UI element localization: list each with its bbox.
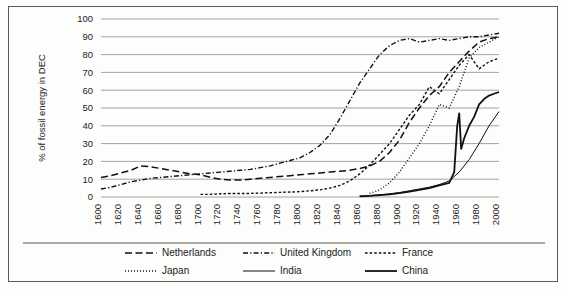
x-tick-label: 1900 (391, 204, 402, 225)
series-line-netherlands (101, 37, 499, 180)
legend-label-japan: Japan (162, 265, 189, 276)
x-tick-label: 1620 (112, 204, 123, 225)
y-tick-label: 50 (82, 102, 93, 113)
x-tick-label: 1780 (271, 204, 282, 225)
x-tick-label: 1860 (351, 204, 362, 225)
y-tick-label: 70 (82, 67, 93, 78)
x-tick-label: 1800 (291, 204, 302, 225)
x-tick-label: 1660 (152, 204, 163, 225)
x-tick-label: 1820 (311, 204, 322, 225)
x-tick-label: 1760 (251, 204, 262, 225)
chart-screenshot: 1009080706050403020100 16001620164016601… (0, 0, 568, 290)
y-tick-label: 10 (82, 174, 93, 185)
y-tick-label: 90 (82, 31, 93, 42)
x-tick-label: 1720 (211, 204, 222, 225)
legend-label-india: India (280, 265, 302, 276)
x-tick-label: 1740 (231, 204, 242, 225)
y-tick-label: 40 (82, 120, 93, 131)
y-tick-label: 20 (82, 156, 93, 167)
x-tick-label: 1940 (430, 204, 441, 225)
legend-label-netherlands: Netherlands (162, 247, 216, 258)
y-tick-label: 100 (77, 13, 93, 24)
x-axis-tick-labels: 1600162016401660168017001720174017601780… (92, 204, 501, 225)
y-tick-label: 30 (82, 138, 93, 149)
x-tick-label: 1680 (172, 204, 183, 225)
y-axis-tick-labels: 1009080706050403020100 (77, 13, 93, 202)
x-tick-label: 1980 (470, 204, 481, 225)
y-tick-label: 80 (82, 49, 93, 60)
y-tick-label: 0 (88, 191, 93, 202)
series-lines (101, 33, 499, 196)
legend-label-china: China (402, 265, 429, 276)
chart-legend: NetherlandsUnited KingdomFranceJapanIndi… (125, 247, 434, 276)
chart-frame: 1009080706050403020100 16001620164016601… (8, 6, 558, 282)
x-tick-label: 1920 (410, 204, 421, 225)
x-tick-label: 1840 (331, 204, 342, 225)
y-axis-title: % of fossil energy in DEC (36, 54, 47, 162)
legend-label-france: France (402, 247, 434, 258)
x-tick-label: 1640 (132, 204, 143, 225)
legend-label-united-kingdom: United Kingdom (280, 247, 351, 258)
series-line-japan (370, 37, 499, 194)
x-tick-label: 1600 (92, 204, 103, 225)
gridlines (101, 19, 499, 197)
x-tick-label: 1960 (450, 204, 461, 225)
y-tick-label: 60 (82, 85, 93, 96)
x-tick-label: 2000 (490, 204, 501, 225)
x-tick-label: 1880 (371, 204, 382, 225)
x-tick-label: 1700 (192, 204, 203, 225)
series-line-united-kingdom (101, 33, 499, 189)
line-chart: 1009080706050403020100 16001620164016601… (9, 7, 559, 283)
